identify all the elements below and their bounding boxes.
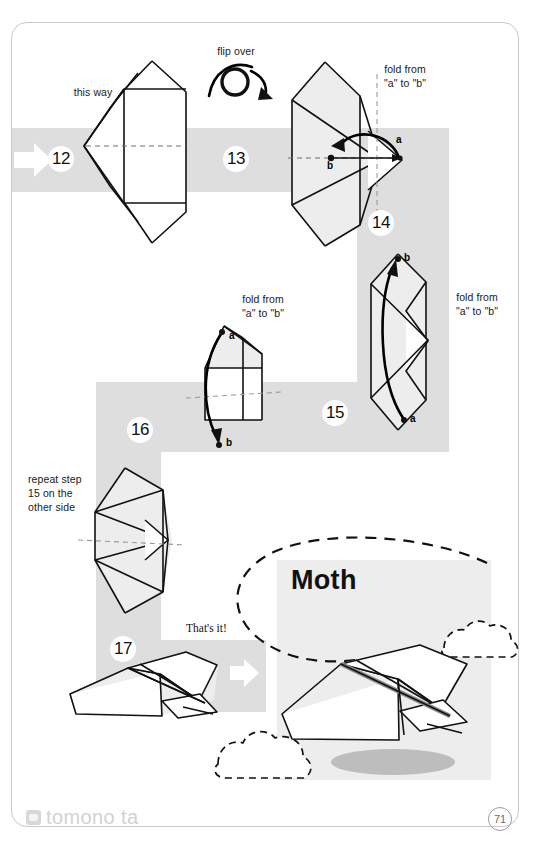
watermark: tomono ta xyxy=(26,806,139,829)
step-number-16: 16 xyxy=(127,417,153,443)
photo-icon xyxy=(26,810,41,825)
point-label-a-step-16: a xyxy=(229,330,235,341)
model-title: Moth xyxy=(291,565,357,596)
point-label-b-step-13: b xyxy=(327,160,333,171)
label-fold-a-to-b-step-15: fold from "a" to "b" xyxy=(432,290,522,318)
instruction-page: Moth xyxy=(0,0,534,853)
step-number-12: 12 xyxy=(48,146,74,172)
label-this-way: this way xyxy=(58,85,128,99)
point-label-a-step-13: a xyxy=(396,134,402,145)
step-number-13: 13 xyxy=(223,146,249,172)
step-number-14: 14 xyxy=(368,210,394,236)
label-thats-it: That's it! xyxy=(186,622,227,634)
label-fold-a-to-b-step-16: fold from "a" to "b" xyxy=(218,292,308,320)
label-fold-a-to-b-step-13: fold from "a" to "b" xyxy=(360,62,450,90)
band-step-15-16 xyxy=(96,382,449,452)
label-flip-over: flip over xyxy=(203,44,269,58)
step-number-17: 17 xyxy=(110,636,136,662)
point-label-b-step-16: b xyxy=(226,437,232,448)
point-label-b-step-15: b xyxy=(404,252,410,263)
point-label-a-step-15: a xyxy=(410,413,416,424)
page-number: 71 xyxy=(488,807,512,831)
watermark-text: tomono ta xyxy=(46,806,139,829)
step-number-15: 15 xyxy=(322,400,348,426)
label-repeat-step: repeat step 15 on the other side xyxy=(28,472,118,515)
